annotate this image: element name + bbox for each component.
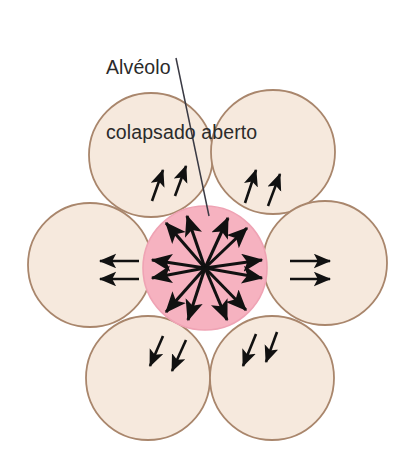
alveolus-bottom-left <box>86 316 210 440</box>
annotation-label-line-1: Alvéolo <box>106 57 257 79</box>
annotation-label-line-2: colapsado aberto <box>106 122 257 144</box>
figure-root: Alvéolo colapsado aberto <box>0 0 407 465</box>
alveolus-middle-left <box>28 203 152 327</box>
annotation-label: Alvéolo colapsado aberto <box>106 13 257 188</box>
alveolus-middle-right <box>263 201 387 325</box>
alveolus-bottom-right <box>210 316 334 440</box>
